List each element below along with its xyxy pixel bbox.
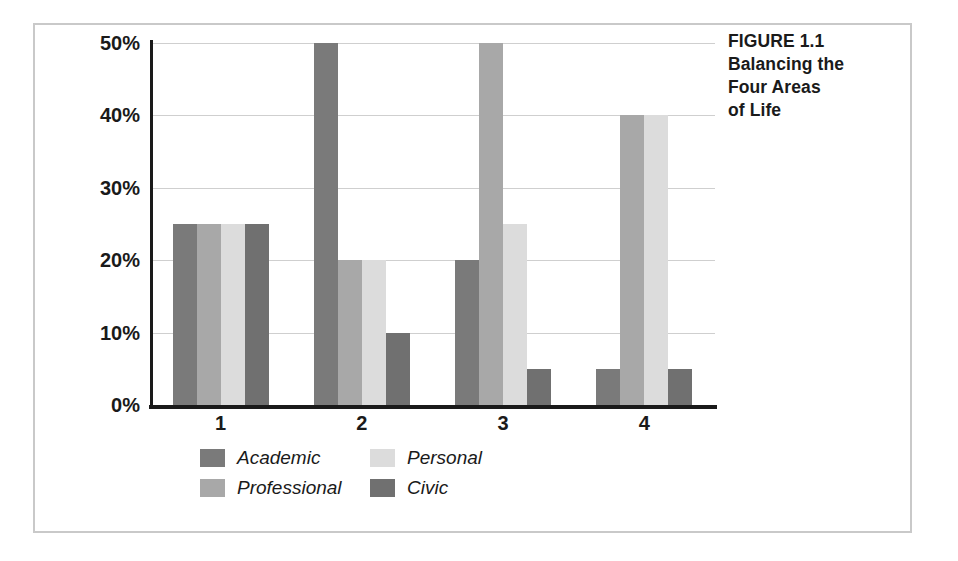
bar-academic-2 <box>314 43 338 405</box>
legend-label: Civic <box>407 477 448 499</box>
y-axis-tick-labels: 0%10%20%30%40%50% <box>68 20 140 500</box>
bar-personal-3 <box>503 224 527 405</box>
figure-caption: FIGURE 1.1 Balancing the Four Areas of L… <box>728 30 898 122</box>
y-axis-tick-label: 50% <box>74 32 140 55</box>
bar-groups <box>150 43 715 405</box>
bar-group-4 <box>574 43 715 405</box>
legend-item-professional[interactable]: Professional <box>200 477 370 499</box>
bar-chart: 0%10%20%30%40%50% 1234 <box>40 20 720 500</box>
bar-professional-4 <box>620 115 644 405</box>
y-axis-tick-label: 10% <box>74 321 140 344</box>
legend-item-civic[interactable]: Civic <box>370 477 540 499</box>
x-axis-line <box>149 405 717 409</box>
legend-swatch-icon <box>370 449 395 467</box>
bar-professional-2 <box>338 260 362 405</box>
bar-civic-2 <box>386 333 410 405</box>
legend-label: Personal <box>407 447 482 469</box>
legend-swatch-icon <box>370 479 395 497</box>
x-axis-tick-label: 3 <box>473 412 533 435</box>
bar-group-1 <box>150 43 291 405</box>
bar-civic-1 <box>245 224 269 405</box>
bar-group-2 <box>291 43 432 405</box>
legend-swatch-icon <box>200 479 225 497</box>
bar-personal-1 <box>221 224 245 405</box>
legend-label: Academic <box>237 447 320 469</box>
bar-personal-4 <box>644 115 668 405</box>
bar-academic-1 <box>173 224 197 405</box>
legend-swatch-icon <box>200 449 225 467</box>
bar-personal-2 <box>362 260 386 405</box>
chart-legend: AcademicPersonalProfessionalCivic <box>200 443 530 503</box>
legend-item-academic[interactable]: Academic <box>200 447 370 469</box>
bar-civic-4 <box>668 369 692 405</box>
caption-line-2: Balancing the <box>728 53 898 76</box>
caption-line-1: FIGURE 1.1 <box>728 30 898 53</box>
x-axis-tick-label: 1 <box>191 412 251 435</box>
legend-label: Professional <box>237 477 342 499</box>
bar-professional-1 <box>197 224 221 405</box>
x-axis-tick-label: 4 <box>614 412 674 435</box>
bar-professional-3 <box>479 43 503 405</box>
legend-item-personal[interactable]: Personal <box>370 447 540 469</box>
y-axis-tick-label: 30% <box>74 176 140 199</box>
bar-group-3 <box>433 43 574 405</box>
bar-academic-4 <box>596 369 620 405</box>
caption-line-3: Four Areas <box>728 76 898 99</box>
caption-line-4: of Life <box>728 99 898 122</box>
x-axis-tick-label: 2 <box>332 412 392 435</box>
bar-academic-3 <box>455 260 479 405</box>
y-axis-tick-label: 0% <box>74 394 140 417</box>
y-axis-tick-label: 40% <box>74 104 140 127</box>
y-axis-tick-label: 20% <box>74 249 140 272</box>
bar-civic-3 <box>527 369 551 405</box>
